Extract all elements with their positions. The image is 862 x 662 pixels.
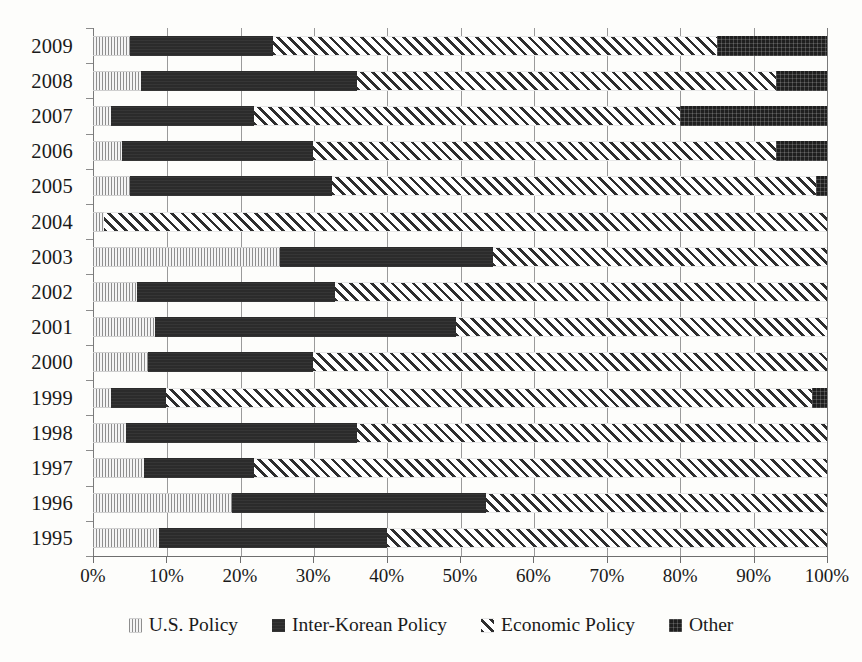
bar-segment-ik[interactable] xyxy=(148,352,313,372)
y-axis-tick xyxy=(86,239,93,240)
bar-segment-ik[interactable] xyxy=(144,458,254,478)
bar-segment-ik[interactable] xyxy=(141,71,358,91)
y-axis-tick xyxy=(86,63,93,64)
bar-segment-ik[interactable] xyxy=(122,141,313,161)
bar-segment-ik[interactable] xyxy=(155,317,456,337)
bar-segment-us[interactable] xyxy=(93,212,104,232)
legend-swatch-ec-icon xyxy=(481,618,494,633)
bar-row[interactable] xyxy=(93,282,827,302)
bar-rows xyxy=(93,28,827,556)
bar-segment-ik[interactable] xyxy=(111,106,254,126)
bar-row[interactable] xyxy=(93,106,827,126)
bar-segment-us[interactable] xyxy=(93,71,141,91)
bar-segment-ec[interactable] xyxy=(254,106,680,126)
bar-segment-ec[interactable] xyxy=(335,282,827,302)
x-axis-label: 70% xyxy=(589,566,624,585)
chart-legend: U.S. PolicyInter-Korean PolicyEconomic P… xyxy=(0,608,862,642)
bar-segment-ec[interactable] xyxy=(387,528,827,548)
bar-segment-us[interactable] xyxy=(93,141,122,161)
bar-segment-ec[interactable] xyxy=(357,423,827,443)
bar-segment-us[interactable] xyxy=(93,176,130,196)
bar-segment-ec[interactable] xyxy=(313,141,775,161)
bar-segment-us[interactable] xyxy=(93,317,155,337)
bar-segment-us[interactable] xyxy=(93,36,130,56)
x-axis-tick xyxy=(827,556,828,563)
bar-track xyxy=(93,458,827,478)
bar-segment-us[interactable] xyxy=(93,282,137,302)
legend-entry-ec[interactable]: Economic Policy xyxy=(481,615,635,635)
x-axis-label: 80% xyxy=(663,566,698,585)
y-axis-ticks xyxy=(86,28,93,556)
bar-segment-us[interactable] xyxy=(93,388,111,408)
bar-segment-ot[interactable] xyxy=(680,106,827,126)
y-axis-tick xyxy=(86,28,93,29)
bar-segment-ot[interactable] xyxy=(717,36,827,56)
bar-row[interactable] xyxy=(93,317,827,337)
bar-segment-ec[interactable] xyxy=(273,36,717,56)
bar-segment-us[interactable] xyxy=(93,247,280,267)
gridline xyxy=(827,28,828,556)
bar-track xyxy=(93,247,827,267)
bar-track xyxy=(93,282,827,302)
bar-row[interactable] xyxy=(93,493,827,513)
bar-segment-ec[interactable] xyxy=(456,317,827,337)
legend-label: U.S. Policy xyxy=(149,615,238,635)
y-axis-label: 2001 xyxy=(31,317,73,338)
bar-track xyxy=(93,141,827,161)
x-axis-tick xyxy=(166,556,167,563)
legend-entry-ik[interactable]: Inter-Korean Policy xyxy=(272,615,447,635)
bar-segment-us[interactable] xyxy=(93,106,111,126)
bar-row[interactable] xyxy=(93,528,827,548)
x-axis-label: 100% xyxy=(805,566,849,585)
bar-segment-ot[interactable] xyxy=(812,388,827,408)
bar-segment-us[interactable] xyxy=(93,528,159,548)
bar-row[interactable] xyxy=(93,352,827,372)
bar-row[interactable] xyxy=(93,423,827,443)
bar-row[interactable] xyxy=(93,36,827,56)
bar-segment-ik[interactable] xyxy=(159,528,387,548)
bar-track xyxy=(93,352,827,372)
bar-segment-us[interactable] xyxy=(93,423,126,443)
bar-row[interactable] xyxy=(93,71,827,91)
bar-segment-ik[interactable] xyxy=(126,423,357,443)
bar-segment-ec[interactable] xyxy=(357,71,775,91)
bar-row[interactable] xyxy=(93,247,827,267)
bar-row[interactable] xyxy=(93,212,827,232)
y-axis-label: 2007 xyxy=(31,106,73,127)
bar-segment-us[interactable] xyxy=(93,458,144,478)
bar-segment-ik[interactable] xyxy=(130,176,332,196)
bar-segment-us[interactable] xyxy=(93,493,232,513)
bar-segment-ot[interactable] xyxy=(816,176,827,196)
bar-segment-ec[interactable] xyxy=(104,212,827,232)
legend-entry-us[interactable]: U.S. Policy xyxy=(129,615,238,635)
bar-segment-ik[interactable] xyxy=(111,388,166,408)
bar-track xyxy=(93,176,827,196)
bar-segment-ec[interactable] xyxy=(486,493,827,513)
bar-segment-ik[interactable] xyxy=(232,493,485,513)
bar-segment-ik[interactable] xyxy=(130,36,273,56)
legend-entry-ot[interactable]: Other xyxy=(669,615,733,635)
x-axis-label: 10% xyxy=(149,566,184,585)
bar-segment-ik[interactable] xyxy=(280,247,493,267)
bar-track xyxy=(93,388,827,408)
x-axis-labels: 0%10%20%30%40%50%60%70%80%90%100% xyxy=(93,566,827,596)
bar-segment-ec[interactable] xyxy=(254,458,827,478)
bar-row[interactable] xyxy=(93,141,827,161)
bar-segment-ot[interactable] xyxy=(776,141,827,161)
legend-swatch-ik-icon xyxy=(272,619,285,632)
bar-segment-ik[interactable] xyxy=(137,282,335,302)
bar-segment-ec[interactable] xyxy=(493,247,827,267)
bar-segment-ec[interactable] xyxy=(166,388,812,408)
y-axis-tick xyxy=(86,380,93,381)
bar-segment-ec[interactable] xyxy=(313,352,827,372)
y-axis-label: 1996 xyxy=(31,493,73,514)
bar-segment-ot[interactable] xyxy=(776,71,827,91)
x-axis-tick xyxy=(240,556,241,563)
bar-segment-us[interactable] xyxy=(93,352,148,372)
x-axis-tick xyxy=(680,556,681,563)
bar-row[interactable] xyxy=(93,176,827,196)
bar-segment-ec[interactable] xyxy=(332,176,816,196)
x-axis-label: 90% xyxy=(736,566,771,585)
bar-row[interactable] xyxy=(93,388,827,408)
bar-row[interactable] xyxy=(93,458,827,478)
